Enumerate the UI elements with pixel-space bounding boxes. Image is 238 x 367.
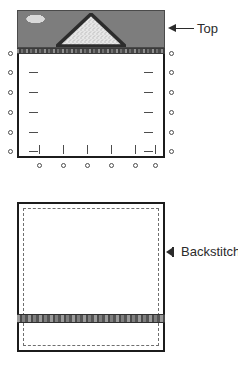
pin-shaft-right-6 (144, 151, 153, 152)
pin-head-bottom-1 (37, 163, 42, 168)
pin-head-bottom-5 (133, 163, 138, 168)
pin-head-bottom-4 (109, 163, 114, 168)
pin-shaft-left-6 (29, 151, 38, 152)
pin-shaft-right-4 (144, 112, 153, 113)
pin-head-left-6 (8, 149, 13, 154)
pin-shaft-left-5 (29, 132, 38, 133)
arrow-left-small-icon (166, 247, 176, 257)
pin-head-bottom-6 (153, 163, 158, 168)
callout-top: Top (168, 22, 218, 35)
upper-diagram (17, 10, 165, 158)
printed-leaf-band (17, 10, 165, 48)
pin-shaft-left-2 (29, 72, 38, 73)
pin-head-left-4 (8, 110, 13, 115)
pin-head-bottom-3 (85, 163, 90, 168)
pin-shaft-bottom-2 (63, 145, 64, 154)
pin-shaft-bottom-6 (155, 145, 156, 154)
pin-shaft-bottom-1 (39, 145, 40, 154)
pin-head-right-3 (169, 90, 174, 95)
lower-diagram (17, 202, 165, 352)
arrow-left-icon (168, 24, 194, 33)
pin-head-right-4 (169, 110, 174, 115)
pin-shaft-bottom-3 (87, 145, 88, 154)
pin-head-left-2 (8, 70, 13, 75)
lower-binding-strip (17, 314, 165, 323)
pin-shaft-left-4 (29, 112, 38, 113)
callout-top-label: Top (197, 22, 218, 35)
pin-shaft-bottom-5 (135, 145, 136, 154)
figure-canvas: Top Backstitch. (0, 0, 238, 367)
triangle-applique-icon (56, 13, 126, 47)
pin-head-bottom-2 (61, 163, 66, 168)
pin-head-left-5 (8, 130, 13, 135)
pin-head-right-2 (169, 70, 174, 75)
callout-backstitch-label: Backstitch. (181, 245, 238, 258)
band-binding-strip (17, 48, 165, 54)
pin-shaft-left-3 (29, 92, 38, 93)
pin-head-right-6 (169, 149, 174, 154)
pin-head-right-1 (169, 51, 174, 56)
pin-head-left-1 (8, 51, 13, 56)
pin-head-left-3 (8, 90, 13, 95)
callout-backstitch: Backstitch. (166, 245, 238, 258)
dashed-stitch-line (23, 208, 159, 346)
pin-shaft-bottom-4 (111, 145, 112, 154)
pin-shaft-right-2 (144, 72, 153, 73)
pin-shaft-right-3 (144, 92, 153, 93)
pin-shaft-right-5 (144, 132, 153, 133)
pin-head-right-5 (169, 130, 174, 135)
